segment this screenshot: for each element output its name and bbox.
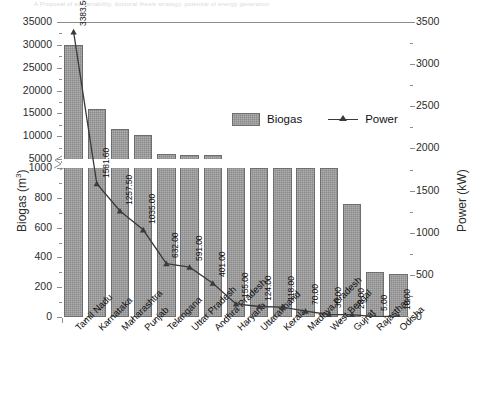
tick-mark <box>410 191 415 192</box>
axis-tick-label: 30000 <box>0 39 52 49</box>
axis-tick-label: 3000 <box>416 58 462 68</box>
power-marker-1 <box>94 181 100 187</box>
tick-mark <box>410 85 413 86</box>
left-axis-title-superscript: 3 <box>14 174 23 178</box>
tick-mark <box>410 148 415 149</box>
legend-biogas-label: Biogas <box>267 113 302 125</box>
power-value-label-14: 10.00 <box>402 289 412 310</box>
power-value-label-6: 401.00 <box>217 252 227 277</box>
axis-tick-label: 10000 <box>0 130 52 140</box>
power-value-label-4: 632.00 <box>170 232 180 257</box>
tick-mark <box>410 43 413 44</box>
axis-tick-label: 2500 <box>416 100 462 110</box>
tick-mark <box>410 275 415 276</box>
axis-tick-label: 20000 <box>0 85 52 95</box>
tick-mark <box>410 170 413 171</box>
power-value-label-5: 591.00 <box>194 236 204 261</box>
axis-tick-label: 15000 <box>0 107 52 117</box>
tick-mark <box>410 22 415 23</box>
right-axis-title: Power (kW) <box>455 169 469 232</box>
axis-tick-label: 3500 <box>416 16 462 26</box>
tick-mark <box>410 64 415 65</box>
axis-tick-label: 25000 <box>0 62 52 72</box>
axis-tick-label: 500 <box>416 269 462 279</box>
x-tick-mark <box>62 318 63 323</box>
tick-mark <box>410 233 415 234</box>
power-value-label-0: 3383.50 <box>78 0 88 26</box>
line-series-power <box>62 22 410 317</box>
tick-mark <box>410 106 415 107</box>
legend-biogas-swatch <box>232 113 260 126</box>
power-value-label-12: 28.00 <box>356 288 366 309</box>
power-value-label-3: 1035.00 <box>147 194 157 224</box>
power-value-label-13: 5.00 <box>379 294 389 310</box>
power-value-label-9: 118.00 <box>286 276 296 301</box>
axis-tick-label: 2000 <box>416 142 462 152</box>
left-axis-title: Biogas (m3) <box>14 170 29 232</box>
axis-tick-label: 35000 <box>0 16 52 26</box>
tick-mark <box>410 254 413 255</box>
chart-canvas: A Proposal of sustainability, doctoral t… <box>0 0 482 394</box>
axis-tick-label: 0 <box>0 311 52 321</box>
power-value-label-10: 70.00 <box>310 284 320 305</box>
power-marker-0 <box>70 29 76 35</box>
legend: Biogas Power <box>232 110 398 128</box>
axis-tick-label: 200 <box>0 281 52 291</box>
power-value-label-8: 124.00 <box>263 275 273 300</box>
power-value-label-7: 155.00 <box>240 273 250 298</box>
power-value-label-1: 1581.60 <box>101 148 111 178</box>
left-axis-title-text: Biogas (m <box>15 178 29 232</box>
tick-mark <box>410 212 413 213</box>
left-axis-title-close: ) <box>15 170 29 174</box>
legend-power-line-icon <box>328 114 358 124</box>
power-value-label-2: 1257.50 <box>124 175 134 205</box>
axis-tick-label: 400 <box>0 251 52 261</box>
power-value-label-11: 30.00 <box>333 288 343 309</box>
legend-power-label: Power <box>365 113 398 125</box>
tick-mark <box>410 127 413 128</box>
